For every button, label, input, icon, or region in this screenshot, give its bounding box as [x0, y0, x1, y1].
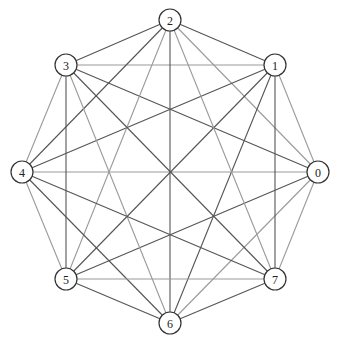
node-1: 1	[264, 54, 286, 76]
node-6: 6	[159, 312, 181, 334]
node-label: 7	[272, 273, 278, 287]
edge-2-7	[170, 20, 275, 279]
node-2: 2	[159, 9, 181, 31]
node-label: 4	[19, 166, 25, 180]
node-7: 7	[264, 268, 286, 290]
node-label: 2	[167, 14, 173, 28]
node-4: 4	[11, 161, 33, 183]
edge-1-6	[170, 65, 275, 323]
edge-0-3	[66, 65, 318, 172]
edge-2-5	[66, 20, 170, 279]
node-0: 0	[307, 161, 329, 183]
node-label: 0	[315, 166, 321, 180]
node-label: 5	[63, 273, 69, 287]
edge-0-5	[66, 172, 318, 279]
node-label: 6	[167, 317, 173, 331]
node-3: 3	[55, 54, 77, 76]
node-5: 5	[55, 268, 77, 290]
node-label: 1	[272, 59, 278, 73]
edge-3-6	[66, 65, 170, 323]
graph-canvas: 01234567	[0, 0, 339, 344]
node-label: 3	[63, 59, 69, 73]
